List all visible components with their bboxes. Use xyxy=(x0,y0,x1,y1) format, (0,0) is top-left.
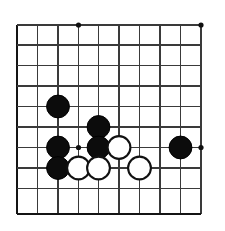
go-board-svg[interactable] xyxy=(0,0,225,231)
stone-white-w1[interactable] xyxy=(108,136,131,159)
stone-black-b3[interactable] xyxy=(47,136,70,159)
grid-vertical-lines xyxy=(17,25,201,214)
stone-black-b6[interactable] xyxy=(47,157,70,180)
star-point-3 xyxy=(198,145,203,150)
stone-black-b5[interactable] xyxy=(169,136,192,159)
stone-white-w4[interactable] xyxy=(128,157,151,180)
go-board-figure xyxy=(0,0,225,231)
go-board-surface[interactable] xyxy=(0,0,225,231)
stone-black-b4[interactable] xyxy=(87,136,110,159)
star-point-2 xyxy=(198,22,203,27)
grid-horizontal-lines xyxy=(17,25,201,214)
stone-white-w3[interactable] xyxy=(87,157,110,180)
stone-black-b2[interactable] xyxy=(87,116,110,139)
star-point-0 xyxy=(76,22,81,27)
star-point-1 xyxy=(76,145,81,150)
stone-black-b1[interactable] xyxy=(47,95,70,118)
